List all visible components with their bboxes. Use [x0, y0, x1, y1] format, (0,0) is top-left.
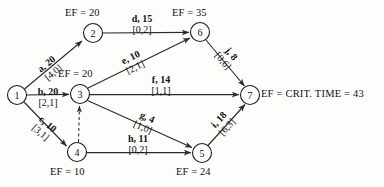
node-4-label: 4: [75, 147, 80, 158]
edge-b-slack: [2,1]: [27, 98, 69, 109]
ef-label-node-6: EF = 35: [172, 7, 207, 18]
ef-label-node-2: EF = 20: [65, 7, 100, 18]
node-2-label: 2: [91, 28, 96, 39]
edge-h-slack: [0,2]: [117, 145, 159, 156]
edge-label-f: f, 14 [1,1]: [140, 75, 182, 96]
edge-h-activity: h, 11: [128, 133, 148, 144]
node-6-label: 6: [198, 27, 203, 38]
edge-d-slack: [0,2]: [121, 25, 163, 36]
edge-f-slack: [1,1]: [140, 86, 182, 97]
node-7-label: 7: [248, 90, 253, 101]
edge-label-b: b, 20 [2,1]: [27, 87, 69, 108]
edge-dummy-line: [79, 106, 80, 142]
network-diagram-canvas: 1 2 3 4 5 6 7 EF = 20 EF = 35 EF = 20 EF…: [0, 0, 384, 187]
edge-d-activity: d, 15: [132, 13, 153, 24]
node-3-label: 3: [78, 89, 83, 100]
node-1-label: 1: [15, 90, 20, 101]
crit-time-label: EF = CRIT. TIME = 43: [261, 88, 364, 99]
node-5-label: 5: [200, 148, 205, 159]
edge-label-d: d, 15 [0,2]: [121, 14, 163, 35]
ef-label-node-4: EF = 10: [50, 166, 85, 177]
ef-label-node-5: EF = 24: [176, 166, 211, 177]
edge-b-activity: b, 20: [38, 86, 59, 97]
edge-label-h: h, 11 [0,2]: [117, 134, 159, 155]
edge-f-activity: f, 14: [152, 74, 170, 85]
